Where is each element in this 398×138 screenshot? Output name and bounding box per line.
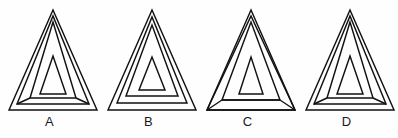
figure-a-outer-triangle	[9, 10, 97, 110]
figure-d-middle-triangle	[314, 16, 386, 104]
figure-a-drawing	[0, 0, 99, 116]
figure-option-c[interactable]: C	[198, 0, 297, 138]
figure-option-b[interactable]: B	[99, 0, 198, 138]
figure-d-inner-triangle	[337, 56, 363, 94]
figure-b-label: B	[99, 114, 198, 130]
figure-sheet: A B C D	[0, 0, 398, 138]
figure-b-inner-triangle	[139, 57, 165, 90]
figure-c-label: C	[198, 114, 297, 130]
figure-a-inner-triangle	[40, 56, 66, 94]
figure-d-drawing	[297, 0, 396, 116]
figure-d-outer-triangle	[306, 10, 394, 110]
figure-a-middle-inner-triangle	[30, 22, 76, 98]
figure-a-label: A	[0, 114, 99, 130]
figure-option-d[interactable]: D	[297, 0, 396, 138]
figure-b-drawing	[99, 0, 198, 116]
figure-c-drawing	[198, 0, 297, 116]
figure-c-outer-triangle	[207, 10, 295, 110]
figure-a-middle-triangle	[17, 16, 89, 104]
figure-option-a[interactable]: A	[0, 0, 99, 138]
figure-c-inner-triangle	[239, 57, 263, 94]
figure-d-label: D	[297, 114, 396, 130]
figure-c-middle-triangle	[207, 16, 295, 110]
figure-d-middle-inner-triangle	[327, 22, 373, 98]
